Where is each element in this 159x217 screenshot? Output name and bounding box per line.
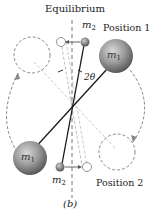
- mass-subscript: 1: [116, 54, 120, 62]
- ghost-large-mass-bottom-right: [99, 134, 135, 170]
- mass-subscript: 2: [61, 179, 65, 187]
- torsion-pendulum-diagram: Equilibrium m2 Position 1 m1 2θ m1 m2 Po…: [0, 0, 159, 217]
- ghost-rod-c: [66, 42, 87, 166]
- position-1-label: Position 1: [103, 23, 150, 33]
- mass-subscript: 2: [91, 24, 95, 32]
- rod-large-masses: [33, 68, 108, 150]
- small-mass-bottom-label: m2: [52, 175, 66, 187]
- equilibrium-label: Equilibrium: [0, 4, 150, 14]
- small-mass-top-label: m2: [82, 20, 96, 32]
- right-motion-arc: [130, 70, 145, 142]
- figure-caption: (b): [63, 199, 77, 209]
- large-mass-top-label: m1: [107, 50, 121, 62]
- mass-subscript: 1: [30, 156, 34, 164]
- small-mass-top: [81, 38, 90, 47]
- ghost-small-mass-top: [57, 38, 66, 47]
- rod-small-masses: [62, 45, 84, 164]
- ghost-small-mass-bottom: [83, 163, 92, 172]
- large-mass-bottom-label: m1: [21, 152, 35, 164]
- angle-label: 2θ: [84, 73, 95, 82]
- small-mass-bottom: [56, 163, 65, 172]
- left-motion-arc: [7, 73, 19, 150]
- position-2-label: Position 2: [96, 178, 143, 188]
- ghost-large-mass-top-left: [14, 37, 50, 73]
